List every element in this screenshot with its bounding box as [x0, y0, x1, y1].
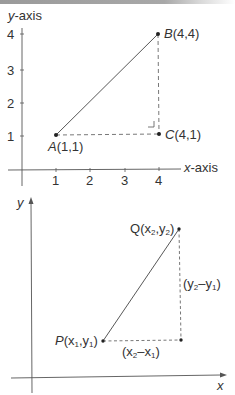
delta-x-label: (x2–x1) — [122, 344, 160, 360]
y-tick-label-4: 4 — [7, 27, 14, 42]
point-c — [157, 132, 161, 136]
diagram-2: y x P(x1,y1) Q(x2,y2) (x2–x1) (y2–y1) — [11, 195, 227, 393]
x-axis-line — [8, 169, 181, 170]
x-axis-line-2 — [11, 375, 221, 378]
segment-bc-dashed — [158, 34, 159, 134]
x-tick-label-3: 3 — [121, 173, 128, 188]
delta-y-label: (y2–y1) — [183, 276, 221, 292]
coordinate-diagrams: y-axis x-axis 4 3 2 1 1 2 3 4 A(1,1) B(4… — [0, 0, 235, 395]
right-angle-marker — [148, 121, 154, 127]
point-corner — [179, 338, 182, 341]
x-tick-label-4: 4 — [155, 173, 162, 188]
point-q — [177, 227, 180, 230]
point-b-label: B(4,4) — [164, 26, 199, 41]
x-axis-label: x-axis — [183, 160, 218, 175]
y-tick-label-3: 3 — [7, 63, 14, 78]
x-axis-arrow-icon — [220, 373, 227, 378]
y-axis-label: y-axis — [7, 8, 42, 23]
point-p-label: P(x1,y1) — [55, 333, 98, 349]
x-tick-label-1: 1 — [52, 173, 59, 188]
y-axis-line-2 — [31, 202, 32, 393]
point-a-label: A(1,1) — [47, 139, 83, 154]
point-c-label: C(4,1) — [165, 127, 201, 142]
point-q-label: Q(x2,y2) — [130, 221, 174, 237]
y-axis-label-2: y — [16, 195, 25, 210]
point-a — [54, 133, 58, 137]
y-axis-arrow-icon — [29, 197, 34, 204]
y-tick-label-2: 2 — [7, 96, 14, 111]
segment-ab — [56, 34, 158, 135]
x-tick-label-2: 2 — [86, 173, 93, 188]
x-axis-label-2: x — [216, 378, 224, 393]
segment-vertical-dashed — [179, 229, 181, 340]
segment-ac-dashed — [56, 134, 159, 135]
segment-pq — [103, 229, 179, 341]
point-p — [101, 339, 104, 342]
segment-horizontal-dashed — [103, 340, 181, 341]
y-tick-label-1: 1 — [7, 129, 14, 144]
diagram-1: y-axis x-axis 4 3 2 1 1 2 3 4 A(1,1) B(4… — [7, 8, 218, 188]
point-b — [156, 32, 160, 36]
